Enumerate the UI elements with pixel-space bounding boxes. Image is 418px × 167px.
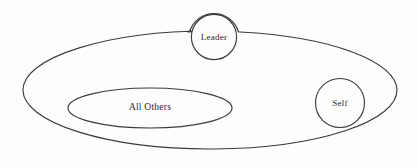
all-others-label: All Others: [129, 101, 171, 112]
self-label: Self: [332, 98, 348, 108]
venn-diagram: Leader All Others Self: [0, 0, 418, 167]
diagram-canvas: Leader All Others Self: [0, 0, 418, 167]
leader-label: Leader: [201, 32, 228, 42]
